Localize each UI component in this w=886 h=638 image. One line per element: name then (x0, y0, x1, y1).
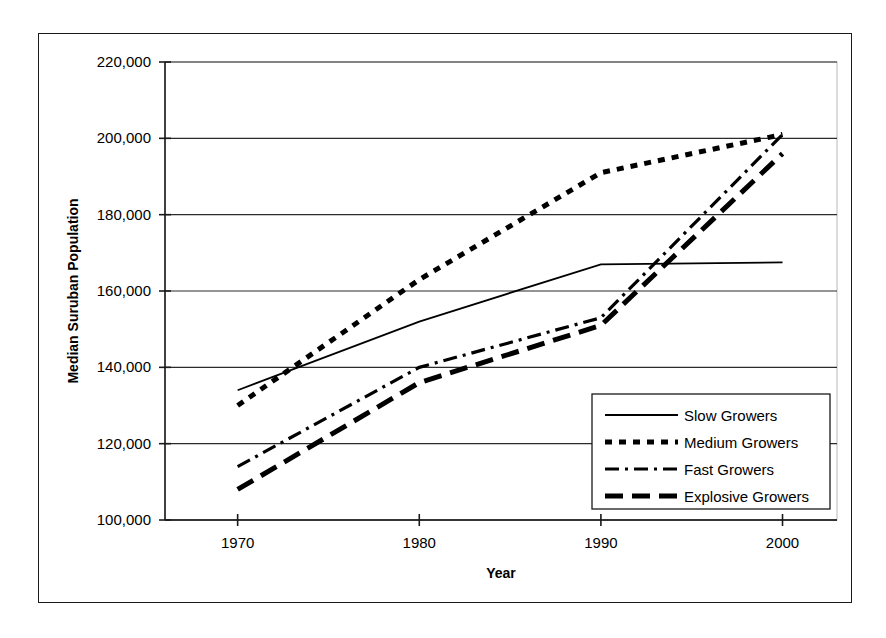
y-tick-label: 180,000 (97, 206, 151, 223)
legend-label: Fast Growers (684, 461, 774, 478)
y-tick-label: 100,000 (97, 511, 151, 528)
x-tick-label: 1970 (221, 534, 254, 551)
line-chart: 100,000120,000140,000160,000180,000200,0… (0, 0, 886, 638)
y-axis-title: Median Suruban Population (65, 198, 81, 383)
legend: Slow GrowersMedium GrowersFast GrowersEx… (592, 394, 830, 509)
legend-label: Explosive Growers (684, 488, 809, 505)
x-tick-label: 2000 (766, 534, 799, 551)
series-line-medium-growers (238, 135, 783, 406)
y-tick-label: 140,000 (97, 358, 151, 375)
y-tick-label: 120,000 (97, 435, 151, 452)
y-tick-label: 200,000 (97, 129, 151, 146)
x-axis-title: Year (486, 565, 516, 581)
x-tick-label: 1980 (403, 534, 436, 551)
series-line-slow-growers (238, 262, 783, 390)
y-tick-label: 160,000 (97, 282, 151, 299)
chart-page: 100,000120,000140,000160,000180,000200,0… (0, 0, 886, 638)
legend-label: Medium Growers (684, 434, 798, 451)
y-tick-label: 220,000 (97, 53, 151, 70)
legend-label: Slow Growers (684, 407, 777, 424)
x-tick-label: 1990 (584, 534, 617, 551)
y-axis-ticks: 100,000120,000140,000160,000180,000200,0… (97, 53, 171, 528)
